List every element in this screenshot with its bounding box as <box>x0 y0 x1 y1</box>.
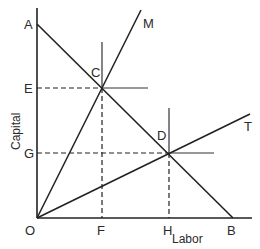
x-axis-title: Labor <box>172 232 203 246</box>
label-o: O <box>25 223 35 238</box>
label-a: A <box>24 17 33 32</box>
label-h: H <box>163 223 172 238</box>
label-e: E <box>24 81 33 96</box>
label-b: B <box>227 223 236 238</box>
label-d: D <box>157 128 166 143</box>
label-g: G <box>24 146 34 161</box>
line-ab <box>37 24 233 218</box>
label-m: M <box>143 16 154 31</box>
ray-om <box>37 10 141 218</box>
label-f: F <box>97 223 105 238</box>
isoquant-diagram: A E G O F H B C D M T Labor Capital <box>0 0 260 249</box>
label-c: C <box>91 65 100 80</box>
label-t: T <box>244 119 252 134</box>
y-axis-title: Capital <box>9 113 23 150</box>
